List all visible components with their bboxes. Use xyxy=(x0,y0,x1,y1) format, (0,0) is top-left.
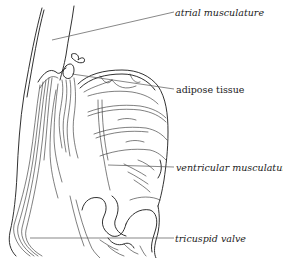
label-ventricular-musculature: ventricular musculature xyxy=(176,163,283,173)
ventricle-outline xyxy=(78,70,168,206)
leader-atrial xyxy=(52,12,174,40)
vessel-strands xyxy=(14,68,66,256)
great-vessel-outline xyxy=(9,6,74,256)
label-tricuspid-valve: tricuspid valve xyxy=(175,234,246,244)
valve-region xyxy=(70,196,160,258)
label-adipose-tissue: adipose tissue xyxy=(176,85,244,95)
ventricular-bands xyxy=(88,100,167,192)
leader-adipose xyxy=(72,74,174,89)
label-atrial-musculature: atrial musculature xyxy=(175,8,264,18)
heart-illustration xyxy=(0,0,283,258)
heart-diagram: atrial musculature adipose tissue ventri… xyxy=(0,0,283,258)
leader-ventricular xyxy=(108,165,174,167)
